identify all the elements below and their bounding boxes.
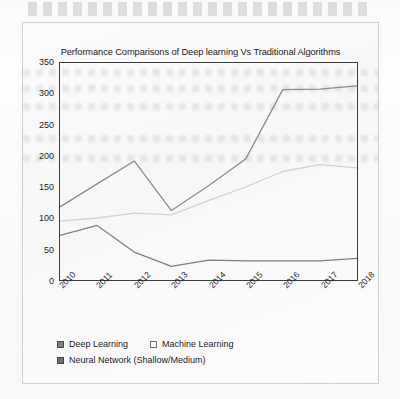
legend-label: Machine Learning xyxy=(162,339,234,349)
x-axis-tick-label: 2018 xyxy=(356,269,377,290)
plot-area xyxy=(59,62,358,281)
legend-item[interactable]: Deep Learning xyxy=(57,339,128,349)
legend-row: Neural Network (Shallow/Medium) xyxy=(57,355,367,365)
y-axis: 050100150200250300350 xyxy=(23,62,56,281)
legend-swatch-icon xyxy=(150,341,157,348)
chart-figure-frame: Performance Comparisons of Deep learning… xyxy=(22,22,379,384)
chart-legend: Deep LearningMachine LearningNeural Netw… xyxy=(57,339,367,371)
series-line-deep-learning xyxy=(60,86,357,211)
legend-row: Deep LearningMachine Learning xyxy=(57,339,367,349)
y-axis-tick-label: 250 xyxy=(39,120,54,130)
legend-label: Neural Network (Shallow/Medium) xyxy=(69,355,206,365)
scan-bleed-artifact xyxy=(28,2,372,16)
x-axis: 201020112012201320142015201620172018 xyxy=(59,283,358,323)
legend-swatch-icon xyxy=(57,357,64,364)
y-axis-tick-label: 200 xyxy=(39,151,54,161)
series-line-machine-learning xyxy=(60,165,357,221)
y-axis-tick-label: 350 xyxy=(39,57,54,67)
chart-title: Performance Comparisons of Deep learning… xyxy=(23,47,378,57)
legend-item[interactable]: Machine Learning xyxy=(150,339,234,349)
chart-lines xyxy=(60,63,357,280)
y-axis-tick-label: 100 xyxy=(39,213,54,223)
y-axis-tick-label: 150 xyxy=(39,182,54,192)
legend-label: Deep Learning xyxy=(69,339,128,349)
legend-item[interactable]: Neural Network (Shallow/Medium) xyxy=(57,355,206,365)
series-line-neural-network-shallow-medium xyxy=(60,225,357,266)
y-axis-tick-label: 0 xyxy=(49,276,54,286)
legend-swatch-icon xyxy=(57,341,64,348)
y-axis-tick-label: 300 xyxy=(39,88,54,98)
y-axis-tick-label: 50 xyxy=(44,245,54,255)
